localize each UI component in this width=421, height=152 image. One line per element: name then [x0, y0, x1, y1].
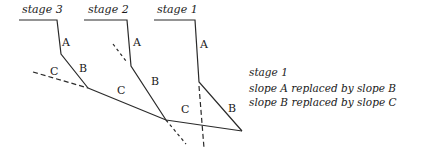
stage3-slope-c-label: C [50, 65, 58, 78]
stage2-b-projection [166, 120, 186, 144]
stage1-a-projection [199, 86, 204, 148]
stage3-slope-b-label: B [79, 62, 87, 75]
stage2-slope-c-label: C [117, 84, 125, 97]
legend-title: stage 1 [249, 66, 288, 78]
stage2-profile [84, 20, 166, 120]
stage1-slope-b-label: B [228, 102, 236, 115]
slope-c-line [88, 88, 242, 131]
stage3-slope-a-label: A [61, 36, 71, 49]
stage1-label: stage 1 [157, 3, 198, 16]
slope-replacement-diagram: stage 3 stage 2 stage 1 A B C A B C A B … [0, 0, 421, 152]
stage3-label: stage 3 [22, 3, 63, 16]
stage1-slope-c-label: C [181, 103, 189, 116]
legend-line-2: slope B replaced by slope C [249, 96, 397, 108]
stage2-slope-b-label: B [151, 75, 159, 88]
stage1-slope-a-label: A [199, 38, 209, 51]
stage2-slope-a-label: A [132, 36, 142, 49]
stage2-label: stage 2 [88, 3, 129, 16]
legend-line-1: slope A replaced by slope B [249, 82, 396, 94]
stage2-a-projection [113, 44, 126, 61]
